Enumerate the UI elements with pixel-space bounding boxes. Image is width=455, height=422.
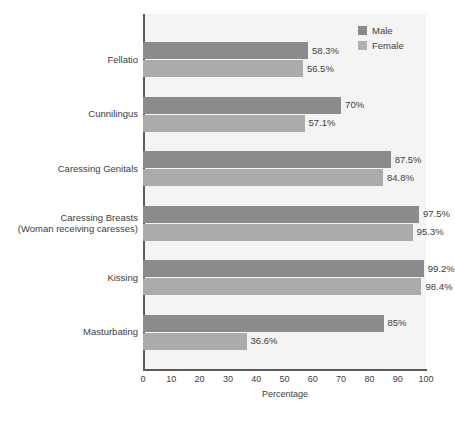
- legend-label-female: Female: [372, 41, 404, 51]
- bar-value-label: 70%: [345, 100, 364, 110]
- x-axis-title: Percentage: [143, 389, 427, 399]
- x-tick-label: 90: [393, 374, 403, 384]
- legend-item-male[interactable]: Male: [358, 24, 404, 37]
- category-label-line: (Woman receiving caresses): [0, 223, 138, 235]
- bar-male-0: [143, 42, 308, 59]
- category-label-3: Caressing Breasts(Woman receiving caress…: [0, 212, 138, 235]
- bar-male-2: [143, 151, 391, 168]
- bar-value-label: 58.3%: [312, 46, 339, 56]
- bar-value-label: 84.8%: [387, 173, 414, 183]
- x-tick-label: 0: [140, 374, 145, 384]
- bar-value-label: 95.3%: [417, 227, 444, 237]
- x-tick-label: 40: [251, 374, 261, 384]
- x-tick-label: 10: [166, 374, 176, 384]
- bar-value-label: 98.4%: [425, 282, 452, 292]
- bar-value-label: 99.2%: [428, 264, 455, 274]
- x-tick-label: 20: [195, 374, 205, 384]
- bar-male-3: [143, 206, 419, 223]
- category-label-1: Cunnilingus: [0, 108, 138, 120]
- bar-female-3: [143, 224, 413, 241]
- category-label-line: Caressing Genitals: [0, 163, 138, 175]
- chart-legend: Male Female: [358, 24, 404, 54]
- bar-female-0: [143, 60, 303, 77]
- bar-value-label: 85%: [388, 318, 407, 328]
- category-label-line: Masturbating: [0, 326, 138, 338]
- bar-value-label: 36.6%: [251, 336, 278, 346]
- x-axis-line: [143, 369, 427, 371]
- legend-swatch-male-icon: [358, 26, 367, 35]
- category-label-4: Kissing: [0, 272, 138, 284]
- bar-female-2: [143, 169, 383, 186]
- x-tick-label: 50: [279, 374, 289, 384]
- legend-swatch-female-icon: [358, 41, 367, 50]
- category-label-0: Fellatio: [0, 54, 138, 66]
- bar-female-1: [143, 115, 305, 132]
- category-label-line: Caressing Breasts: [0, 212, 138, 224]
- x-tick-label: 60: [308, 374, 318, 384]
- legend-item-female[interactable]: Female: [358, 39, 404, 52]
- x-tick-label: 80: [364, 374, 374, 384]
- bar-male-4: [143, 260, 424, 277]
- x-tick-label: 100: [418, 374, 433, 384]
- category-label-line: Cunnilingus: [0, 108, 138, 120]
- category-label-line: Kissing: [0, 272, 138, 284]
- bar-male-5: [143, 315, 384, 332]
- legend-label-male: Male: [372, 26, 393, 36]
- x-tick-label: 30: [223, 374, 233, 384]
- category-label-5: Masturbating: [0, 326, 138, 338]
- bar-female-4: [143, 278, 421, 295]
- bar-value-label: 57.1%: [309, 118, 336, 128]
- category-label-line: Fellatio: [0, 54, 138, 66]
- bar-value-label: 87.5%: [395, 155, 422, 165]
- bar-male-1: [143, 97, 341, 114]
- category-label-2: Caressing Genitals: [0, 163, 138, 175]
- bar-value-label: 56.5%: [307, 64, 334, 74]
- bar-value-label: 97.5%: [423, 209, 450, 219]
- x-tick-label: 70: [336, 374, 346, 384]
- bar-female-5: [143, 333, 247, 350]
